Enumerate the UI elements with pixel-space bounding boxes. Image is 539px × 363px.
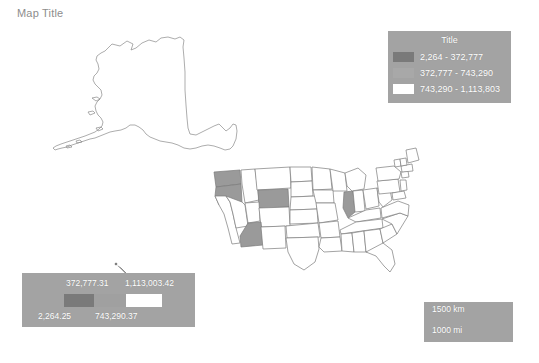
state-arkansas xyxy=(319,221,340,238)
state-utah xyxy=(245,202,260,223)
legend-item-label: 372,777 - 743,290 xyxy=(420,68,493,78)
continuous-legend-label-upper-b: 1,113,003.42 xyxy=(125,278,174,288)
state-minnesota xyxy=(312,167,332,190)
legend-swatch-icon xyxy=(393,84,414,94)
map-legend[interactable]: Title 2,264 - 372,777 372,777 - 743,290 … xyxy=(388,31,511,103)
scalebar-mi-label: 1000 mi xyxy=(432,325,462,335)
continuous-legend-segment xyxy=(64,294,94,307)
state-new-york xyxy=(376,166,401,181)
state-new-mexico xyxy=(261,226,286,249)
state-new-jersey xyxy=(400,180,407,191)
continuous-legend-label-upper-a: 372,777.31 xyxy=(66,278,109,288)
state-ohio xyxy=(363,188,379,209)
scalebar[interactable]: 1500 km 1000 mi xyxy=(424,302,513,342)
state-wyoming xyxy=(258,189,289,208)
state-wisconsin xyxy=(330,169,347,191)
contiguous-us-states xyxy=(214,148,419,272)
legend-item[interactable]: 372,777 - 743,290 xyxy=(393,65,506,80)
continuous-legend-bar xyxy=(64,294,162,307)
state-nebraska xyxy=(290,196,317,210)
state-new-hampshire xyxy=(400,158,407,166)
scalebar-km-label: 1500 km xyxy=(432,304,465,314)
state-north-dakota xyxy=(290,167,312,182)
state-colorado xyxy=(259,207,290,227)
continuous-legend-label-lower-b: 743,290.37 xyxy=(95,311,138,321)
continuous-legend-segment xyxy=(126,294,162,307)
legend-item-label: 743,290 - 1,113,803 xyxy=(420,84,500,94)
state-alabama xyxy=(352,231,366,252)
continuous-legend-label-lower-a: 2,264.25 xyxy=(38,311,71,321)
state-pennsylvania xyxy=(377,179,400,194)
continuous-legend-segment xyxy=(94,294,126,307)
state-montana xyxy=(255,167,291,190)
state-missouri xyxy=(316,203,338,223)
map-canvas: Map Title xyxy=(0,0,539,363)
state-maine xyxy=(406,148,419,163)
legend-title: Title xyxy=(393,34,506,47)
state-kansas xyxy=(290,209,318,224)
state-texas xyxy=(286,237,319,270)
continuous-legend[interactable]: 372,777.31 1,113,003.42 2,264.25 743,290… xyxy=(22,273,195,327)
alaska-shape xyxy=(53,37,237,150)
legend-swatch-icon xyxy=(393,68,414,78)
state-michigan xyxy=(345,168,366,191)
legend-swatch-icon xyxy=(393,52,414,62)
state-oklahoma xyxy=(286,223,320,238)
legend-item[interactable]: 743,290 - 1,113,803 xyxy=(393,81,506,96)
legend-item[interactable]: 2,264 - 372,777 xyxy=(393,49,506,64)
state-south-dakota xyxy=(291,181,313,197)
state-maryland xyxy=(392,191,406,200)
legend-item-label: 2,264 - 372,777 xyxy=(420,52,483,62)
state-louisiana xyxy=(319,237,342,252)
state-iowa xyxy=(313,190,334,203)
